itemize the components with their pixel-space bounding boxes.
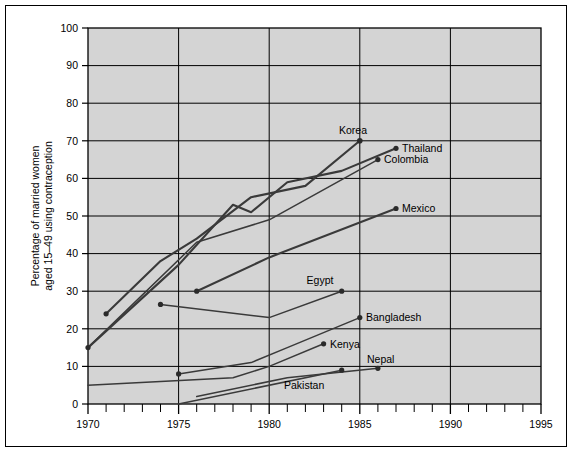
marker-korea-start [104, 311, 109, 316]
marker-nepal-end [375, 366, 380, 371]
x-tick-labels: 1970 1975 1980 1985 1990 1995 [76, 418, 553, 430]
marker-mexico-end [393, 206, 398, 211]
y-axis-title: Percentage of married women aged 15–49 u… [29, 141, 54, 291]
series-label-pakistan: Pakistan [284, 379, 324, 391]
series-label-colombia: Colombia [384, 153, 429, 165]
marker-egypt-end [339, 289, 344, 294]
marker-bangladesh-end [357, 315, 362, 320]
series-label-egypt: Egypt [307, 274, 334, 286]
y-tick-labels: 100 90 80 70 60 50 40 30 20 10 0 [60, 22, 78, 410]
line-chart: 100 90 80 70 60 50 40 30 20 10 0 [0, 0, 572, 452]
ytick-label-10: 10 [66, 360, 78, 372]
series-label-korea: Korea [339, 124, 367, 136]
x-axis-major-ticks [88, 404, 541, 414]
marker-korea-end [357, 138, 363, 144]
chart-figure: 100 90 80 70 60 50 40 30 20 10 0 [0, 0, 572, 452]
y-axis-title-line2: aged 15–49 using contraception [42, 141, 54, 291]
ytick-label-0: 0 [72, 398, 78, 410]
ytick-label-90: 90 [66, 59, 78, 71]
ytick-label-50: 50 [66, 210, 78, 222]
marker-colombia-end [375, 157, 380, 162]
xtick-label-1970: 1970 [76, 418, 100, 430]
series-label-mexico: Mexico [402, 202, 435, 214]
marker-thailand-end [393, 146, 398, 151]
series-label-kenya: Kenya [330, 338, 360, 350]
ytick-label-60: 60 [66, 172, 78, 184]
ytick-label-100: 100 [60, 22, 78, 34]
xtick-label-1995: 1995 [529, 418, 553, 430]
xtick-label-1990: 1990 [439, 418, 463, 430]
marker-mexico-start [194, 289, 199, 294]
marker-kenya-end [321, 341, 326, 346]
ytick-label-30: 30 [66, 285, 78, 297]
ytick-label-40: 40 [66, 247, 78, 259]
y-axis-title-line1: Percentage of married women [29, 146, 41, 287]
marker-thailand-start [85, 345, 90, 350]
ytick-label-80: 80 [66, 97, 78, 109]
xtick-label-1975: 1975 [167, 418, 191, 430]
series-label-nepal: Nepal [367, 353, 394, 365]
ytick-label-70: 70 [66, 135, 78, 147]
marker-bangladesh-start [176, 371, 181, 376]
xtick-label-1985: 1985 [348, 418, 372, 430]
xtick-label-1980: 1980 [258, 418, 282, 430]
marker-egypt-start [158, 302, 163, 307]
series-label-bangladesh: Bangladesh [366, 311, 422, 323]
marker-pakistan-end [339, 368, 344, 373]
ytick-label-20: 20 [66, 323, 78, 335]
x-axis-minor-ticks [106, 404, 523, 412]
